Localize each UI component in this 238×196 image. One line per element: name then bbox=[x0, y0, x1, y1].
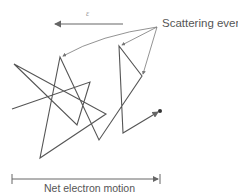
callout-arrow-3 bbox=[143, 27, 157, 74]
electric-field-label: ε bbox=[86, 9, 89, 18]
callout-arrow-1 bbox=[63, 27, 157, 56]
electron-drift-diagram bbox=[0, 0, 238, 196]
electron-end-dot bbox=[158, 109, 162, 113]
electron-path bbox=[12, 46, 158, 158]
net-motion-label: Net electron motion bbox=[44, 182, 135, 194]
scattering-events-label: Scattering events bbox=[162, 17, 238, 29]
